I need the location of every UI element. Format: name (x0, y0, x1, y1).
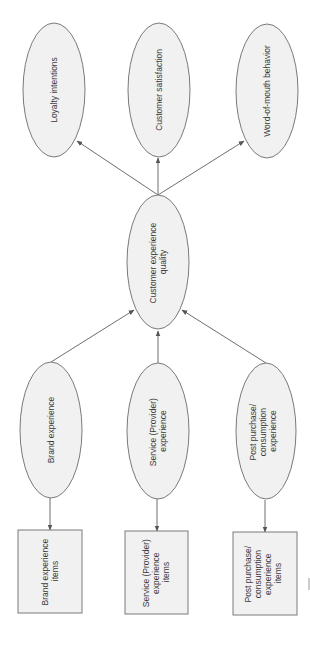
node-customer-experience-quality: Customer experience quality (127, 195, 189, 329)
box-brand-experience-items: Brand experience items (18, 530, 82, 613)
box-label-line-1: Brand experience (40, 539, 50, 606)
node-post-purchase-experience: Post purchase/ consumption experience (236, 363, 296, 499)
node-label-line-1: Customer experience (148, 223, 158, 304)
node-label-line-2: consumption (258, 408, 268, 456)
node-label-line-1: Post purchase/ (248, 403, 258, 460)
node-label-line-2: experience (158, 410, 168, 452)
svg-text:Post purchase/ consumpti: Post purchase/ consumption experience (248, 401, 278, 460)
node-word-of-mouth-behavior: Word-of-mouth behavior (236, 24, 298, 158)
edges-to-items (50, 498, 265, 532)
node-brand-experience: Brand experience (20, 362, 82, 498)
box-label-line-1: Post purchase/ (243, 545, 253, 602)
node-label-line-3: experience (268, 410, 278, 452)
box-label-line-3: items (161, 562, 171, 582)
box-label-line-2: items (50, 561, 60, 581)
node-service-provider-experience: Service (Provider) experience (127, 363, 189, 499)
svg-text:Word-of-mouth behavior: Word-of-mouth behavior (262, 45, 272, 137)
svg-text:Brand experience: Brand experience (46, 396, 56, 463)
node-label-line-1: Service (Provider) (148, 398, 158, 466)
edge-brand-to-cxq (51, 310, 134, 362)
box-label-line-4: items (273, 563, 283, 583)
svg-text:Loyalty intentions: Loyalty intentions (49, 57, 59, 123)
box-post-purchase-experience-items: Post purchase/ consumption experience it… (233, 532, 297, 615)
node-label: Word-of-mouth behavior (262, 45, 272, 137)
svg-text:Customer satisfaction: Customer satisfaction (154, 49, 164, 131)
box-label-line-2: consumption (253, 550, 263, 598)
node-customer-satisfaction: Customer satisfaction (128, 23, 190, 157)
box-service-provider-experience-items: Service (Provider) experience items (125, 531, 188, 614)
box-label-line-2: experience (151, 552, 161, 594)
node-label: Customer satisfaction (154, 49, 164, 131)
cx-quality-diagram: Loyalty intentions Customer satisfaction… (0, 0, 310, 649)
node-loyalty-intentions: Loyalty intentions (23, 23, 85, 157)
node-label-line-2: quality (158, 249, 168, 274)
box-label-line-1: Service (Provider) (141, 539, 151, 607)
node-label: Loyalty intentions (49, 57, 59, 123)
edge-post-to-cxq (182, 310, 266, 363)
node-label: Brand experience (46, 396, 56, 463)
box-label-line-3: experience (263, 553, 273, 595)
